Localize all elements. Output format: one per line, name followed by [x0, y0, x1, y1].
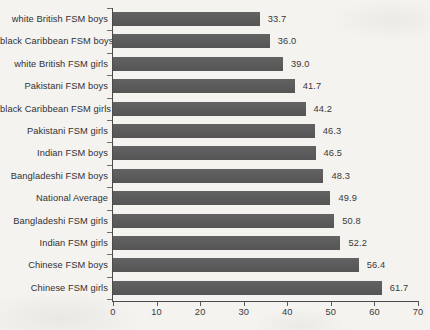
bar-rows-container: white British FSM boys33.7black Caribbea…: [0, 0, 430, 300]
x-axis-tick-label: 70: [413, 307, 424, 317]
y-axis-tick: [107, 30, 112, 31]
category-label: Chinese FSM girls: [0, 277, 108, 299]
bar-value-label: 50.8: [342, 210, 361, 232]
x-axis-tick-label: 10: [151, 307, 162, 317]
y-axis-tick: [107, 53, 112, 54]
bar-value-label: 41.7: [303, 75, 322, 97]
x-axis-tick: [244, 302, 245, 306]
bar-value-label: 48.3: [331, 165, 350, 187]
x-axis-tick-label: 40: [282, 307, 293, 317]
bar-row: white British FSM girls39.0: [0, 53, 430, 75]
x-axis-tick: [374, 302, 375, 306]
category-label: Pakistani FSM girls: [0, 120, 108, 142]
bar-row: Indian FSM girls52.2: [0, 232, 430, 254]
bar-row: Pakistani FSM girls46.3: [0, 120, 430, 142]
y-axis-tick: [107, 210, 112, 211]
bar[interactable]: [113, 79, 295, 93]
category-label: Bangladeshi FSM boys: [0, 165, 108, 187]
category-label: Pakistani FSM boys: [0, 75, 108, 97]
bar-value-label: 46.5: [324, 142, 343, 164]
x-axis-tick: [157, 302, 158, 306]
category-label: black Caribbean FSM girls: [0, 98, 108, 120]
bar[interactable]: [113, 124, 315, 138]
category-label: Indian FSM boys: [0, 142, 108, 164]
y-axis-tick: [107, 165, 112, 166]
category-label: Bangladeshi FSM girls: [0, 210, 108, 232]
bar[interactable]: [113, 146, 316, 160]
x-axis-tick-label: 30: [238, 307, 249, 317]
bar-row: black Caribbean FSM boys36.0: [0, 30, 430, 52]
x-axis-line: [112, 301, 419, 302]
bar-row: Indian FSM boys46.5: [0, 142, 430, 164]
bar[interactable]: [113, 191, 330, 205]
y-axis-tick: [107, 120, 112, 121]
bar-row: Chinese FSM girls61.7: [0, 277, 430, 299]
bar[interactable]: [113, 12, 260, 26]
bar[interactable]: [113, 34, 270, 48]
bar-row: Chinese FSM boys56.4: [0, 254, 430, 276]
x-axis-tick-label: 20: [195, 307, 206, 317]
bar-row: Bangladeshi FSM boys48.3: [0, 165, 430, 187]
category-label: National Average: [0, 187, 108, 209]
y-axis-tick: [107, 277, 112, 278]
y-axis-tick: [107, 187, 112, 188]
y-axis-tick: [107, 142, 112, 143]
bar-row: Pakistani FSM boys41.7: [0, 75, 430, 97]
bar-row: white British FSM boys33.7: [0, 8, 430, 30]
x-axis-tick: [287, 302, 288, 306]
bar[interactable]: [113, 236, 340, 250]
y-axis-tick: [107, 98, 112, 99]
category-label: white British FSM boys: [0, 8, 108, 30]
bar-value-label: 49.9: [338, 187, 357, 209]
bar-value-label: 33.7: [268, 8, 287, 30]
y-axis-tick: [107, 75, 112, 76]
y-axis-tick: [107, 254, 112, 255]
category-label: Chinese FSM boys: [0, 254, 108, 276]
x-axis-tick: [331, 302, 332, 306]
bar-row: Bangladeshi FSM girls50.8: [0, 210, 430, 232]
x-axis-tick-label: 0: [110, 307, 115, 317]
bar[interactable]: [113, 281, 382, 295]
bar[interactable]: [113, 214, 334, 228]
x-axis-tick-label: 50: [326, 307, 337, 317]
bar[interactable]: [113, 169, 323, 183]
x-axis-tick: [418, 302, 419, 306]
bar-value-label: 56.4: [367, 254, 386, 276]
category-label: black Caribbean FSM boys: [0, 30, 108, 52]
bar[interactable]: [113, 258, 359, 272]
bar[interactable]: [113, 102, 306, 116]
x-axis-tick-label: 60: [369, 307, 380, 317]
y-axis-tick: [107, 8, 112, 9]
category-label: Indian FSM girls: [0, 232, 108, 254]
y-axis-line: [112, 8, 113, 302]
bar-value-label: 36.0: [278, 30, 297, 52]
bar-value-label: 44.2: [314, 98, 333, 120]
bar-row: black Caribbean FSM girls44.2: [0, 98, 430, 120]
y-axis-tick: [107, 232, 112, 233]
bar[interactable]: [113, 57, 283, 71]
bar-value-label: 52.2: [348, 232, 367, 254]
bar-value-label: 61.7: [390, 277, 409, 299]
category-label: white British FSM girls: [0, 53, 108, 75]
bar-value-label: 46.3: [323, 120, 342, 142]
x-axis-tick: [200, 302, 201, 306]
x-axis-tick: [113, 302, 114, 306]
bar-value-label: 39.0: [291, 53, 310, 75]
bar-chart: white British FSM boys33.7black Caribbea…: [0, 0, 430, 330]
bar-row: National Average49.9: [0, 187, 430, 209]
